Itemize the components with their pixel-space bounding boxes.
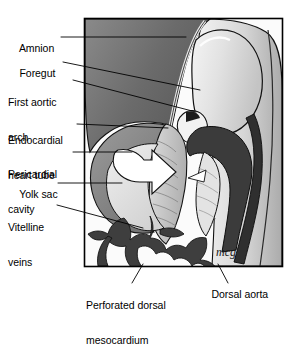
artist-signature: mcg bbox=[216, 245, 236, 259]
label-amnion-line1: Amnion bbox=[19, 42, 54, 54]
label-dorsal-aorta: Dorsal aorta bbox=[200, 277, 268, 312]
label-perforated-dorsal-mesocardium: Perforated dorsal mesocardium bbox=[86, 277, 166, 348]
label-first-aortic-arch-line1: First aortic bbox=[8, 97, 56, 109]
label-vitelline-veins: Vitelline veins bbox=[8, 199, 44, 291]
label-vitelline-veins-line1: Vitelline bbox=[8, 222, 44, 234]
signature-text: mcg bbox=[216, 245, 236, 259]
label-endocardial-heart-tube-line1: Endocardial bbox=[8, 135, 63, 147]
illustration-body: mcg bbox=[85, 19, 282, 268]
label-perforated-dorsal-mesocardium-line2: mesocardium bbox=[86, 335, 166, 347]
label-dorsal-aorta-line1: Dorsal aorta bbox=[211, 288, 268, 300]
label-yolk-sac-line1: Yolk sac bbox=[19, 188, 57, 200]
label-vitelline-veins-line2: veins bbox=[8, 257, 44, 269]
label-perforated-dorsal-mesocardium-line1: Perforated dorsal bbox=[86, 300, 166, 312]
